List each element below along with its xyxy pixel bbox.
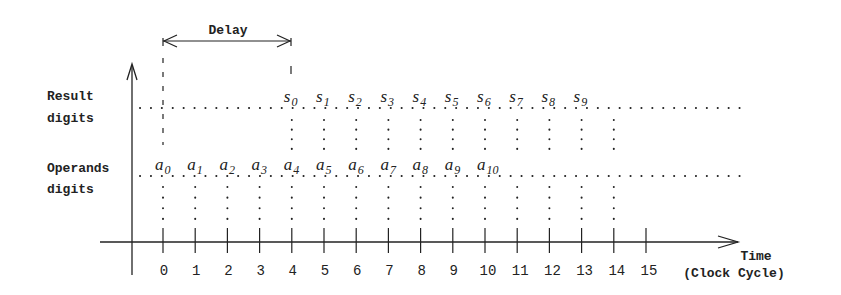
result_digits-digit: s4 xyxy=(413,87,427,109)
tick-label: 8 xyxy=(417,263,425,279)
result_digits-digit: s1 xyxy=(316,87,330,109)
operand_digits-digit: a5 xyxy=(316,155,332,177)
tick-label: 2 xyxy=(224,263,232,279)
tick-label: 7 xyxy=(385,263,393,279)
tick-label: 9 xyxy=(450,263,458,279)
tick-label: 4 xyxy=(289,263,297,279)
result-label-line1: Result xyxy=(47,89,94,104)
tick-label: 0 xyxy=(160,263,168,279)
tick-label: 5 xyxy=(321,263,329,279)
result-digits: s0s1s2s3s4s5s6s7s8s9 xyxy=(284,87,587,109)
time-label-line2: (Clock Cycle) xyxy=(683,266,784,281)
y-axis xyxy=(127,64,137,275)
result-label-line2: digits xyxy=(47,111,94,126)
operand_digits-digit: a2 xyxy=(219,155,235,177)
operand_digits-digit: a1 xyxy=(187,155,203,177)
operand_digits-digit: a10 xyxy=(477,155,499,177)
tick-labels: 0123456789101112131415 xyxy=(160,263,658,279)
tick-label: 1 xyxy=(192,263,200,279)
operand_digits-digit: a3 xyxy=(252,155,268,177)
operand_digits-digit: a0 xyxy=(155,155,171,177)
tick-label: 6 xyxy=(353,263,361,279)
operand_digits-digit: a9 xyxy=(445,155,461,177)
result_digits-digit: s2 xyxy=(348,87,362,109)
tick-label: 12 xyxy=(544,263,561,279)
timing-diagram: Delay 0123456789101112131415 Result digi… xyxy=(0,0,841,295)
result_digits-digit: s8 xyxy=(541,87,555,109)
operand_digits-digit: a8 xyxy=(413,155,429,177)
result_digits-digit: s6 xyxy=(477,87,491,109)
time-label-line1: Time xyxy=(740,249,771,264)
operand_digits-digit: a7 xyxy=(380,155,397,177)
tick-label: 13 xyxy=(576,263,593,279)
tick-label: 3 xyxy=(256,263,264,279)
result_digits-digit: s5 xyxy=(445,87,459,109)
tick-label: 15 xyxy=(641,263,658,279)
delay-label: Delay xyxy=(208,23,247,38)
result_digits-digit: s9 xyxy=(574,87,588,109)
operand_digits-digit: a4 xyxy=(284,155,300,177)
operands-label-line2: digits xyxy=(47,182,94,197)
tick-label: 14 xyxy=(608,263,625,279)
tick-label: 11 xyxy=(512,263,529,279)
result_digits-digit: s7 xyxy=(509,87,524,109)
operands-label-line1: Operands xyxy=(47,161,110,176)
result_digits-digit: s0 xyxy=(284,87,298,109)
tick-marks xyxy=(163,228,646,253)
result_digits-digit: s3 xyxy=(380,87,394,109)
operand_digits-digit: a6 xyxy=(348,155,364,177)
operand-digits: a0a1a2a3a4a5a6a7a8a9a10 xyxy=(155,155,499,177)
tick-label: 10 xyxy=(480,263,497,279)
